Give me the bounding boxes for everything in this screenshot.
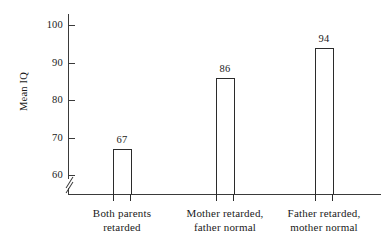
bar-value-label: 94 xyxy=(304,33,344,44)
x-tick xyxy=(113,194,114,201)
category-label-line: mother normal xyxy=(264,220,384,234)
x-tick xyxy=(332,194,333,201)
bar xyxy=(216,78,235,194)
x-tick xyxy=(130,194,131,201)
y-tick-60 xyxy=(68,175,75,176)
y-tick-100 xyxy=(68,25,75,26)
bar-chart: Mean IQ 60708090100 67Both parentsretard… xyxy=(0,0,392,248)
category-label-line: retarded xyxy=(62,220,182,234)
bar xyxy=(113,149,132,194)
x-tick xyxy=(315,194,316,201)
y-tick-label-80: 80 xyxy=(37,94,63,105)
bar xyxy=(315,48,334,194)
y-tick-label-90: 90 xyxy=(37,57,63,68)
category-label: Father retarded,mother normal xyxy=(264,206,384,234)
x-axis-line xyxy=(68,194,381,195)
y-axis-title: Mean IQ xyxy=(18,57,29,127)
category-label-line: Both parents xyxy=(62,206,182,220)
y-axis-line xyxy=(68,14,69,194)
x-tick xyxy=(216,194,217,201)
y-tick-80 xyxy=(68,100,75,101)
y-tick-label-70: 70 xyxy=(37,132,63,143)
category-label: Both parentsretarded xyxy=(62,206,182,234)
y-tick-90 xyxy=(68,63,75,64)
bar-value-label: 86 xyxy=(205,63,245,74)
x-tick xyxy=(233,194,234,201)
y-tick-label-100: 100 xyxy=(37,19,63,30)
bar-value-label: 67 xyxy=(102,134,142,145)
category-label-line: Father retarded, xyxy=(264,206,384,220)
y-tick-label-60: 60 xyxy=(37,169,63,180)
y-tick-70 xyxy=(68,138,75,139)
